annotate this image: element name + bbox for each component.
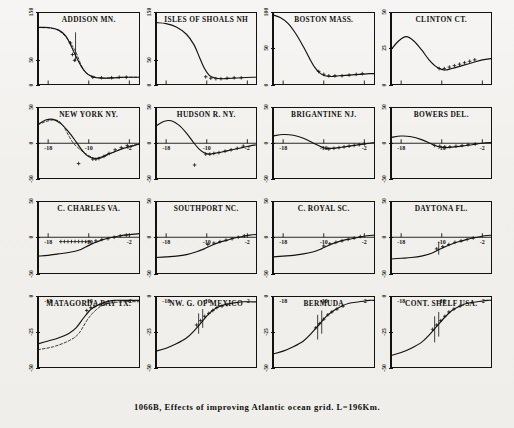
data-point-marker bbox=[448, 145, 452, 149]
data-point-marker bbox=[473, 142, 477, 146]
data-curve-dashed bbox=[38, 301, 140, 349]
y-tick-label: 50 bbox=[146, 101, 152, 113]
chart-panel: -50050C. CHARLES VA.-18-10-2 bbox=[26, 201, 140, 292]
panel-title: ISLES OF SHOALS NH bbox=[156, 15, 258, 24]
data-point-marker bbox=[465, 238, 469, 242]
y-tick-label: 50 bbox=[146, 195, 152, 207]
y-tick-label: 0 bbox=[381, 79, 387, 91]
chart-panel: -50050BOWERS DEL.-18-10-2 bbox=[379, 107, 493, 198]
data-point-marker bbox=[110, 76, 114, 80]
y-tick-mark bbox=[154, 85, 158, 86]
y-axis: 050150 bbox=[26, 12, 38, 85]
data-point-marker bbox=[66, 240, 70, 244]
y-tick-label: 0 bbox=[381, 290, 387, 302]
y-tick-label: -50 bbox=[28, 268, 34, 280]
data-point-marker bbox=[340, 239, 344, 243]
y-tick-label: 50 bbox=[28, 54, 34, 66]
panel-title: MATAGORDA BAY TX. bbox=[38, 299, 140, 308]
data-point-marker bbox=[224, 238, 228, 242]
data-point-marker bbox=[212, 151, 216, 155]
data-point-marker bbox=[232, 76, 236, 80]
x-tick-label: -2 bbox=[362, 239, 367, 245]
y-tick-label: -50 bbox=[146, 173, 152, 185]
data-point-marker bbox=[217, 150, 221, 154]
data-curve-solid bbox=[38, 27, 140, 78]
data-curve-solid bbox=[391, 37, 493, 70]
data-point-marker bbox=[346, 238, 350, 242]
data-point-marker bbox=[117, 75, 121, 79]
y-tick-label: 150 bbox=[28, 6, 34, 18]
y-tick-label: -25 bbox=[146, 326, 152, 338]
data-curve-solid bbox=[273, 15, 375, 77]
data-point-marker bbox=[354, 73, 358, 77]
panel-title: HUDSON R. NY. bbox=[156, 110, 258, 119]
data-point-marker bbox=[438, 318, 442, 322]
y-tick-label: 0 bbox=[381, 137, 387, 149]
chart-panel: -50050NEW YORK NY.-18-10-2 bbox=[26, 107, 140, 198]
y-tick-mark bbox=[271, 368, 275, 369]
y-tick-label: -50 bbox=[263, 173, 269, 185]
data-point-marker bbox=[112, 235, 116, 239]
x-tick-label: -18 bbox=[279, 144, 287, 150]
data-point-marker bbox=[342, 145, 346, 149]
data-point-marker bbox=[125, 233, 129, 237]
y-tick-mark bbox=[271, 85, 275, 86]
y-tick-label: 50 bbox=[263, 42, 269, 54]
y-axis: -50050 bbox=[261, 201, 273, 274]
data-point-marker bbox=[207, 152, 211, 156]
data-point-marker bbox=[203, 75, 207, 79]
x-tick-label: -18 bbox=[397, 144, 405, 150]
data-curve-solid bbox=[156, 301, 258, 350]
chart-panel: -50-250MATAGORDA BAY TX.-18-10-2 bbox=[26, 296, 140, 387]
data-point-marker bbox=[347, 144, 351, 148]
data-point-marker bbox=[447, 310, 451, 314]
data-point-marker bbox=[239, 76, 243, 80]
y-axis: 02550 bbox=[379, 12, 391, 85]
data-curve-solid bbox=[156, 23, 258, 79]
panel-title: BRIGANTINE NJ. bbox=[273, 110, 375, 119]
x-tick-label: -18 bbox=[44, 144, 52, 150]
x-tick-label: -10 bbox=[85, 144, 93, 150]
data-curve-solid bbox=[273, 300, 375, 354]
data-point-marker bbox=[235, 146, 239, 150]
data-point-marker bbox=[192, 163, 196, 167]
x-tick-label: -18 bbox=[162, 144, 170, 150]
x-tick-label: -18 bbox=[397, 239, 405, 245]
y-tick-label: 0 bbox=[263, 137, 269, 149]
y-axis: -50050 bbox=[26, 201, 38, 274]
y-tick-label: -50 bbox=[28, 173, 34, 185]
data-point-marker bbox=[225, 76, 229, 80]
panel-title: NW. G. OF MEXICO bbox=[156, 299, 258, 308]
chart-panel: -50-250BERMUDA-18-10-2 bbox=[261, 296, 375, 387]
data-point-marker bbox=[63, 240, 67, 244]
y-tick-label: 50 bbox=[28, 195, 34, 207]
panel-title: CLINTON CT. bbox=[391, 15, 493, 24]
data-point-marker bbox=[80, 240, 84, 244]
y-tick-mark bbox=[154, 368, 158, 369]
chart-panel: -50050SOUTHPORT NC.-18-10-2 bbox=[144, 201, 258, 292]
y-tick-label: -25 bbox=[28, 326, 34, 338]
x-tick-label: -10 bbox=[202, 239, 210, 245]
y-axis: -50050 bbox=[144, 107, 156, 180]
data-point-marker bbox=[229, 147, 233, 151]
data-point-marker bbox=[100, 76, 104, 80]
panel-title: SOUTHPORT NC. bbox=[156, 204, 258, 213]
figure-caption: 1066B, Effects of improving Atlantic oce… bbox=[0, 402, 514, 412]
data-point-marker bbox=[337, 145, 341, 149]
y-axis: -50050 bbox=[144, 201, 156, 274]
panel-title: BOWERS DEL. bbox=[391, 110, 493, 119]
panel-title: BOSTON MASS. bbox=[273, 15, 375, 24]
chart-panel: 050100BOSTON MASS.-18-10-2 bbox=[261, 12, 375, 103]
data-point-marker bbox=[125, 75, 129, 79]
chart-panel: -50050C. ROYAL SC.-18-10-2 bbox=[261, 201, 375, 292]
data-point-marker bbox=[236, 235, 240, 239]
data-point-marker bbox=[77, 161, 81, 165]
data-point-marker bbox=[340, 74, 344, 78]
data-point-marker bbox=[334, 241, 338, 245]
y-axis: -50050 bbox=[379, 107, 391, 180]
y-tick-label: 0 bbox=[263, 231, 269, 243]
y-tick-mark bbox=[271, 179, 275, 180]
panel-title: C. ROYAL SC. bbox=[273, 204, 375, 213]
y-tick-label: -50 bbox=[28, 362, 34, 374]
data-point-marker bbox=[59, 240, 63, 244]
